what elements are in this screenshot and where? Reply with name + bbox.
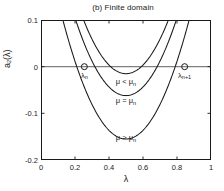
chart-figure: (b) Finite domain 0.10-0.1-0.2 a2(λ) μ <… <box>0 0 224 191</box>
x-tick-label: 1 <box>209 163 213 172</box>
curve-0 <box>41 20 211 74</box>
x-axis-title: λ <box>41 174 211 184</box>
region-label-mu-equal: μ = μn <box>116 96 136 105</box>
x-tick-label: 0.4 <box>104 163 114 172</box>
y-axis-title: a2(λ) <box>2 49 12 68</box>
x-tick-label: 0.8 <box>172 163 182 172</box>
region-label-mu-less: μ < μn <box>116 77 136 86</box>
root-lambda-n-plus-1-label: λn+1 <box>178 71 191 80</box>
plot-area: μ < μnμ = μnμ > μnλnλn+1 <box>41 20 211 160</box>
chart-title: (b) Finite domain <box>0 3 224 12</box>
x-tick-label: 0.6 <box>138 163 148 172</box>
y-tick-label: 0 <box>34 62 38 71</box>
x-tick-label: 0 <box>39 163 43 172</box>
root-lambda-n-label: λn <box>81 71 88 80</box>
y-tick-label: -0.1 <box>25 109 38 118</box>
y-tick-label: -0.2 <box>25 156 38 165</box>
y-axis-tick-labels: 0.10-0.1-0.2 <box>0 20 38 160</box>
region-label-mu-greater: μ > μn <box>116 133 136 142</box>
y-tick-label: 0.1 <box>28 16 38 25</box>
x-tick-label: 0.2 <box>70 163 80 172</box>
